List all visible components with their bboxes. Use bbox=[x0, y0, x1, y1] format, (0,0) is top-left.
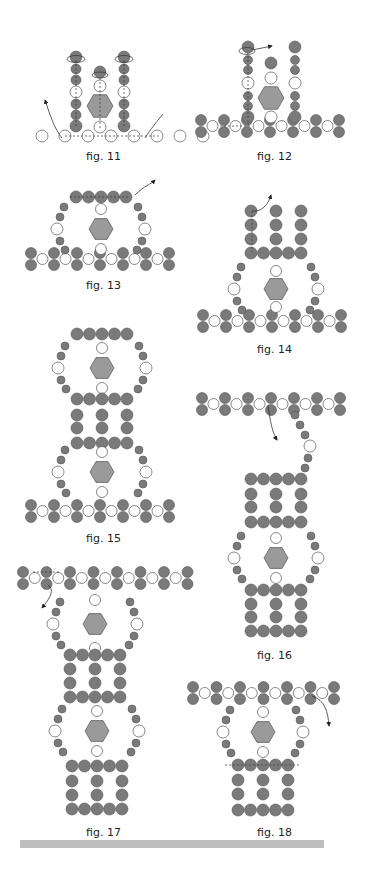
footer-bar bbox=[20, 840, 324, 848]
white-bead bbox=[140, 362, 152, 374]
hexagon-bead bbox=[264, 279, 288, 300]
white-bead bbox=[322, 121, 333, 132]
dark-bead bbox=[84, 437, 96, 449]
dark-bead bbox=[245, 233, 257, 245]
white-bead bbox=[217, 726, 229, 738]
dark-bead bbox=[222, 716, 230, 724]
dark-bead bbox=[114, 691, 126, 703]
white-bead bbox=[317, 688, 328, 699]
hexagon-bead bbox=[264, 548, 288, 569]
dark-bead bbox=[266, 405, 277, 416]
dark-bead bbox=[79, 760, 91, 772]
dark-bead bbox=[141, 512, 152, 523]
dark-bead bbox=[88, 579, 99, 590]
dark-bead bbox=[66, 789, 78, 801]
white-bead bbox=[83, 254, 94, 265]
hexagon-bead bbox=[90, 358, 114, 379]
dark-bead bbox=[258, 247, 270, 259]
dark-bead bbox=[26, 260, 37, 271]
dark-bead bbox=[121, 422, 133, 434]
dark-bead bbox=[134, 203, 142, 211]
dark-bead bbox=[282, 774, 294, 786]
dark-bead bbox=[258, 516, 270, 528]
dark-bead bbox=[238, 306, 246, 314]
dark-bead bbox=[133, 246, 141, 254]
figure-label-12: fig. 12 bbox=[257, 150, 292, 163]
dark-bead bbox=[112, 579, 123, 590]
dark-bead bbox=[270, 233, 282, 245]
dark-bead bbox=[197, 405, 208, 416]
white-bead bbox=[289, 77, 301, 89]
white-bead bbox=[83, 506, 94, 517]
dark-bead bbox=[311, 542, 319, 550]
white-bead bbox=[152, 254, 163, 265]
white-bead bbox=[242, 77, 254, 89]
white-bead bbox=[312, 283, 324, 295]
dark-bead bbox=[77, 691, 89, 703]
dark-bead bbox=[290, 310, 301, 321]
hexagon-bead bbox=[89, 219, 113, 240]
white-bead bbox=[199, 688, 210, 699]
dark-bead bbox=[118, 260, 129, 271]
dark-bead bbox=[65, 567, 76, 578]
white-bead bbox=[253, 121, 264, 132]
dark-bead bbox=[91, 760, 103, 772]
dark-bead bbox=[296, 421, 304, 429]
dark-bead bbox=[233, 542, 241, 550]
dark-bead bbox=[102, 649, 114, 661]
dark-bead bbox=[267, 322, 278, 333]
dark-bead bbox=[242, 41, 254, 53]
dark-bead bbox=[211, 694, 222, 705]
white-bead bbox=[246, 688, 257, 699]
dark-bead bbox=[235, 682, 246, 693]
dark-bead bbox=[114, 663, 126, 675]
dark-bead bbox=[295, 488, 307, 500]
figure-label-11: fig. 11 bbox=[86, 150, 121, 163]
dark-bead bbox=[141, 248, 152, 259]
dark-bead bbox=[198, 322, 209, 333]
white-bead bbox=[76, 573, 87, 584]
dark-bead bbox=[114, 677, 126, 689]
dark-bead bbox=[334, 127, 345, 138]
white-bead bbox=[228, 552, 240, 564]
dark-bead bbox=[84, 393, 96, 405]
white-bead bbox=[147, 573, 158, 584]
dark-bead bbox=[188, 694, 199, 705]
dark-bead bbox=[301, 464, 309, 472]
dark-bead bbox=[237, 263, 245, 271]
dark-bead bbox=[329, 682, 340, 693]
white-bead bbox=[265, 72, 277, 84]
figure-12 bbox=[196, 41, 345, 138]
dark-bead bbox=[233, 297, 241, 305]
dark-bead bbox=[182, 579, 193, 590]
white-bead bbox=[97, 447, 108, 458]
dark-bead bbox=[243, 393, 254, 404]
dark-bead bbox=[18, 579, 29, 590]
dark-bead bbox=[84, 328, 96, 340]
dark-bead bbox=[245, 584, 257, 596]
dark-bead bbox=[54, 715, 62, 723]
dark-bead bbox=[305, 682, 316, 693]
dark-bead bbox=[219, 127, 230, 138]
dark-bead bbox=[89, 677, 101, 689]
dark-bead bbox=[96, 409, 108, 421]
dark-bead bbox=[116, 789, 128, 801]
dark-bead bbox=[232, 804, 244, 816]
white-bead bbox=[276, 121, 287, 132]
thread-path bbox=[252, 46, 272, 50]
dark-bead bbox=[128, 705, 136, 713]
dark-bead bbox=[182, 567, 193, 578]
dark-bead bbox=[56, 598, 64, 606]
dark-bead bbox=[119, 110, 129, 120]
dark-bead bbox=[245, 219, 257, 231]
white-bead bbox=[277, 399, 288, 410]
dark-bead bbox=[112, 567, 123, 578]
white-bead bbox=[52, 362, 64, 374]
dark-bead bbox=[258, 625, 270, 637]
dark-bead bbox=[295, 247, 307, 259]
dark-bead bbox=[130, 608, 138, 616]
dark-bead bbox=[232, 788, 244, 800]
dark-bead bbox=[312, 393, 323, 404]
dark-bead bbox=[49, 260, 60, 271]
white-bead bbox=[53, 573, 64, 584]
